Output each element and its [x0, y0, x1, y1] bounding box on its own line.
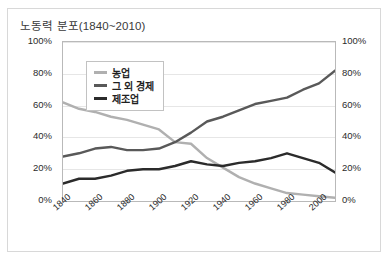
legend-swatch-icon: [94, 97, 107, 100]
y-axis-right-tick-label: 0%: [342, 195, 356, 205]
y-axis-right-tick-label: 100%: [342, 36, 366, 46]
series-line-농업: [63, 102, 335, 197]
chart-legend: 농업그 외 경제제조업: [86, 61, 164, 111]
legend-item: 제조업: [94, 92, 154, 105]
series-line-제조업: [63, 153, 335, 183]
legend-swatch-icon: [94, 71, 107, 74]
y-axis-left-tick-label: 40%: [33, 131, 52, 141]
y-axis-left-tick-label: 20%: [33, 163, 52, 173]
y-axis-left-tick-label: 0%: [38, 195, 52, 205]
y-axis-right-tick-label: 80%: [342, 68, 361, 78]
x-axis-tick-label: 1840: [51, 192, 73, 213]
legend-swatch-icon: [94, 84, 107, 87]
legend-item-label: 제조업: [112, 91, 139, 106]
chart-container: 농업그 외 경제제조업 0%0%20%20%40%40%60%60%80%80%…: [8, 9, 382, 253]
chart-card: 노동력 분포(1840~2010) 농업그 외 경제제조업 0%0%20%20%…: [7, 8, 381, 252]
y-axis-left-tick-label: 100%: [28, 36, 52, 46]
y-axis-left-tick-label: 60%: [33, 100, 52, 110]
y-axis-right-tick-label: 40%: [342, 131, 361, 141]
y-axis-left-tick-label: 80%: [33, 68, 52, 78]
y-axis-right-tick-label: 20%: [342, 163, 361, 173]
y-axis-right-tick-label: 60%: [342, 100, 361, 110]
